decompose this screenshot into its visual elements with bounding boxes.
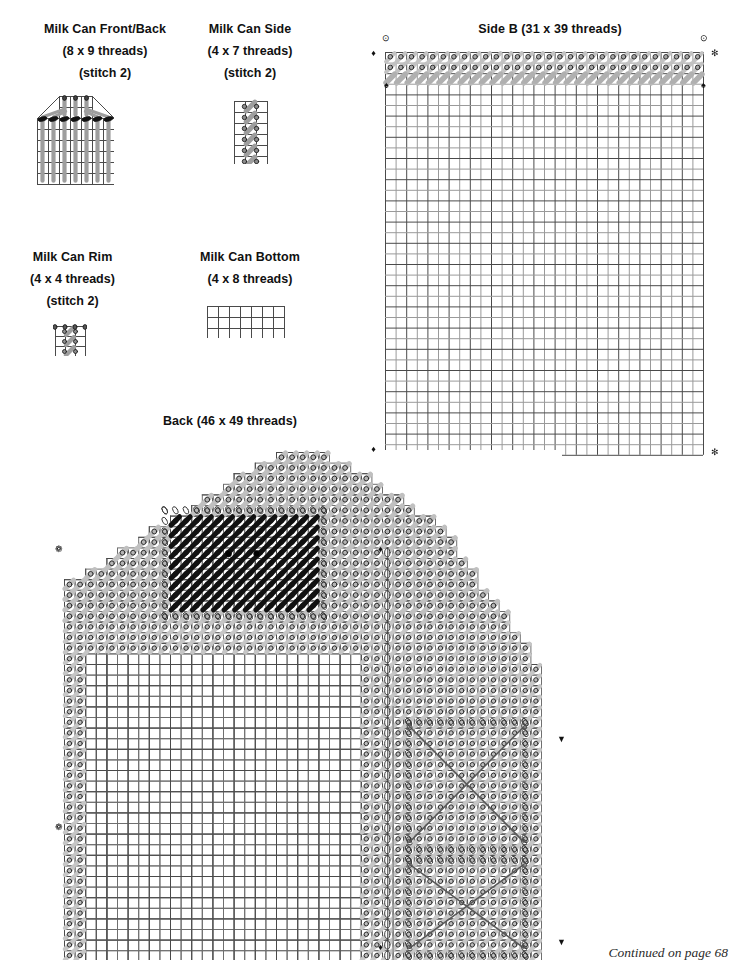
side-b-grid[interactable] [383, 50, 707, 456]
diamond-marker-left-top: ♦ [368, 49, 379, 58]
triangle-marker-right-upper: ▼ [556, 735, 567, 744]
asterisk-marker-right-top: ✻ [709, 49, 720, 58]
back-grid[interactable] [62, 450, 562, 960]
milk-can-front-back-grid[interactable] [32, 92, 114, 190]
milk-can-rim-title: Milk Can Rim [0, 246, 145, 268]
milk-can-side-size: (4 x 7 threads) [155, 40, 345, 62]
milk-can-rim-stitch: (stitch 2) [0, 290, 145, 312]
circle-dot-marker-top-left: ⊙ [380, 34, 391, 43]
milk-can-side-grid[interactable] [231, 98, 271, 164]
milk-can-side-stitch: (stitch 2) [155, 62, 345, 84]
club-marker-left-lower: ❁ [53, 823, 64, 832]
circle-dot-marker-top-right: ⊙ [698, 34, 709, 43]
diamond-marker-left-bottom: ♦ [368, 445, 379, 454]
triangle-marker-right-lower: ▼ [556, 938, 567, 947]
milk-can-bottom-title: Milk Can Bottom [170, 246, 330, 268]
milk-can-side-title: Milk Can Side [155, 18, 345, 40]
spade-marker-inner-left: ♠ [381, 81, 392, 90]
continued-note: Continued on page 68 [608, 945, 728, 961]
diamond-marker-right-upper: ♦ [375, 545, 386, 554]
milk-can-rim-grid[interactable] [53, 322, 87, 356]
side-b-title: Side B (31 x 39 threads) [380, 18, 720, 40]
milk-can-bottom-grid[interactable] [204, 303, 286, 338]
back-title: Back (46 x 49 threads) [90, 410, 370, 432]
spade-marker-inner-right: ♠ [698, 81, 709, 90]
club-marker-left-upper: ❁ [53, 545, 64, 554]
pattern-page: Milk Can Front/Back (8 x 9 threads) (sti… [0, 0, 736, 969]
milk-can-rim-size: (4 x 4 threads) [0, 268, 145, 290]
diamond-marker-bottom: ♦ [375, 943, 386, 952]
milk-can-bottom-size: (4 x 8 threads) [170, 268, 330, 290]
asterisk-marker-right-bottom: ✻ [709, 448, 720, 457]
